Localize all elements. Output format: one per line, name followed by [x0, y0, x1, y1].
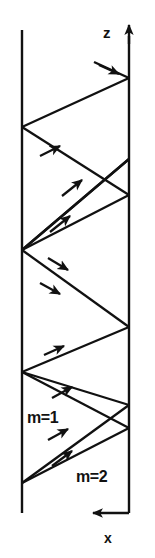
ray-path-m2	[22, 127, 129, 483]
z-axis-label: z	[103, 25, 111, 40]
x-axis-label: x	[104, 531, 112, 545]
mode-label-m2: m=2	[76, 469, 107, 485]
figure-root: z x m=1 m=2	[0, 0, 155, 558]
ray-direction-arrows	[40, 65, 119, 466]
mode-label-m1: m=1	[27, 410, 58, 426]
